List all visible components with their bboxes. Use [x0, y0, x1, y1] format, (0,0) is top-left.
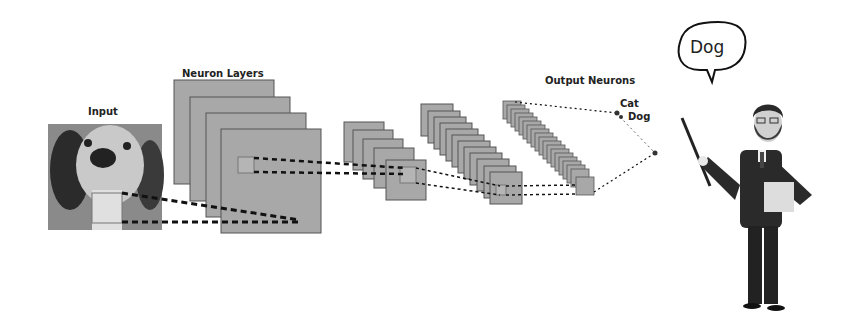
- input-image: [48, 124, 164, 230]
- neuron-layers-label: Neuron Layers: [182, 68, 264, 79]
- speech-text: Dog: [690, 37, 724, 57]
- output-neurons-label: Output Neurons: [545, 75, 635, 86]
- layer-stack-2: [344, 122, 426, 200]
- cat-label: Cat: [620, 98, 639, 109]
- presenter-figure: [682, 105, 812, 312]
- cnn-diagram: [0, 0, 855, 326]
- layer-stack-1: [174, 80, 321, 233]
- dog-label: Dog: [628, 111, 650, 122]
- input-label: Input: [88, 106, 118, 117]
